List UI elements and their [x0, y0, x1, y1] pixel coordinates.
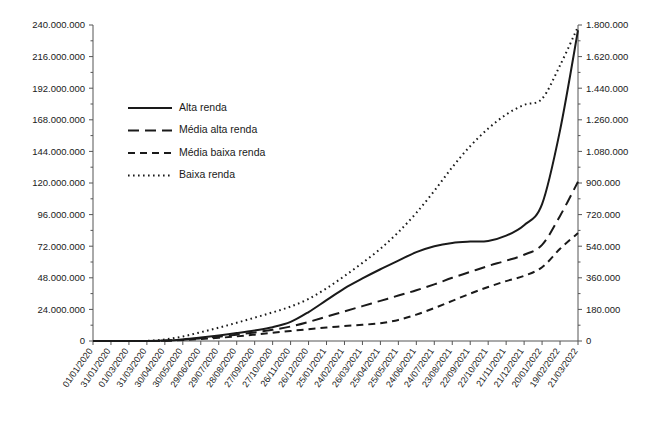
- legend-label-0: Alta renda: [179, 101, 227, 113]
- legend-label-2: Média baixa renda: [179, 146, 266, 158]
- y-axis-left-tick-label: 96.000.000: [37, 209, 85, 220]
- y-axis-right-tick-label: 1.620.000: [586, 51, 628, 62]
- y-axis-right-tick-label: 720.000: [586, 209, 620, 220]
- y-axis-right-tick-label: 0: [586, 335, 591, 346]
- y-axis-left: 024.000.00048.000.00072.000.00096.000.00…: [32, 19, 93, 346]
- y-axis-left-tick-label: 216.000.000: [32, 51, 85, 62]
- y-axis-left-tick-label: 192.000.000: [32, 83, 85, 94]
- legend-label-3: Baixa renda: [179, 168, 235, 180]
- series-line-1: [93, 182, 578, 341]
- y-axis-left-tick-label: 24.000.000: [37, 304, 85, 315]
- y-axis-left-tick-label: 0: [80, 335, 85, 346]
- y-axis-left-tick-label: 168.000.000: [32, 114, 85, 125]
- y-axis-right-tick-label: 900.000: [586, 177, 620, 188]
- y-axis-left-tick-label: 72.000.000: [37, 241, 85, 252]
- series-line-2: [93, 233, 578, 341]
- y-axis-right-tick-label: 1.800.000: [586, 19, 628, 30]
- x-axis: 01/01/202031/01/202001/03/202031/03/2020…: [61, 341, 580, 389]
- y-axis-left-tick-label: 48.000.000: [37, 272, 85, 283]
- legend-label-1: Média alta renda: [179, 123, 257, 135]
- y-axis-right-tick-label: 180.000: [586, 304, 620, 315]
- series-group: [93, 27, 578, 341]
- chart-container: 024.000.00048.000.00072.000.00096.000.00…: [0, 0, 664, 423]
- y-axis-right-tick-label: 1.080.000: [586, 146, 628, 157]
- y-axis-right-tick-label: 540.000: [586, 241, 620, 252]
- chart-legend: Alta rendaMédia alta rendaMédia baixa re…: [128, 101, 266, 181]
- y-axis-right-tick-label: 360.000: [586, 272, 620, 283]
- y-axis-right: 0180.000360.000540.000720.000900.0001.08…: [578, 19, 628, 346]
- y-axis-left-tick-label: 120.000.000: [32, 177, 85, 188]
- series-line-0: [93, 30, 578, 341]
- y-axis-left-tick-label: 240.000.000: [32, 19, 85, 30]
- y-axis-right-tick-label: 1.440.000: [586, 83, 628, 94]
- line-chart: 024.000.00048.000.00072.000.00096.000.00…: [0, 0, 664, 423]
- y-axis-left-tick-label: 144.000.000: [32, 146, 85, 157]
- chart-plot-area: 024.000.00048.000.00072.000.00096.000.00…: [32, 19, 628, 389]
- y-axis-right-tick-label: 1.260.000: [586, 114, 628, 125]
